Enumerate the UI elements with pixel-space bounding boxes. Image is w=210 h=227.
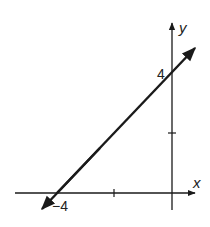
graph-line-lower [42,148,100,209]
coordinate-graph: y x 4 −4 [0,0,210,227]
x-axis-label: x [192,174,201,191]
y-axis-label: y [178,19,188,36]
x-intercept-label: −4 [52,198,68,214]
y-intercept-label: 4 [157,66,165,82]
